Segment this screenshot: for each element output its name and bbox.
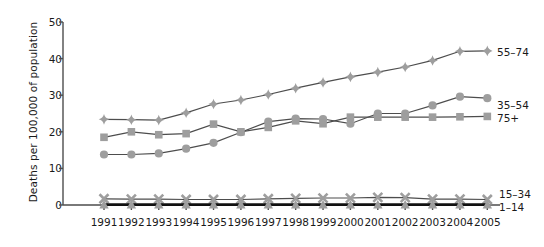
data-point-35-54 <box>456 93 464 101</box>
data-point-55-74 <box>318 77 329 88</box>
data-point-55-74 <box>99 114 110 125</box>
data-point-75+ <box>182 130 190 138</box>
data-point-35-54 <box>209 139 217 147</box>
data-point-75+ <box>401 113 409 121</box>
chart-plot-area <box>0 0 544 247</box>
data-point-75+ <box>264 124 272 132</box>
data-point-35-54 <box>428 101 436 109</box>
data-point-75+ <box>237 128 245 136</box>
data-point-35-54 <box>182 145 190 153</box>
data-point-55-74 <box>427 55 438 66</box>
data-point-55-74 <box>400 62 411 73</box>
data-point-75+ <box>319 120 327 128</box>
series-35-54 <box>100 93 492 159</box>
data-point-55-74 <box>373 67 384 78</box>
data-point-55-74 <box>181 107 192 118</box>
data-point-55-74 <box>455 46 466 57</box>
data-point-35-54 <box>483 94 491 102</box>
data-point-55-74 <box>290 83 301 94</box>
data-point-75+ <box>374 113 382 121</box>
data-point-55-74 <box>236 95 247 106</box>
data-point-75+ <box>347 113 355 121</box>
data-point-75+ <box>210 120 218 128</box>
data-point-55-74 <box>126 114 137 125</box>
data-point-55-74 <box>345 72 356 83</box>
data-point-75+ <box>128 128 136 136</box>
data-point-75+ <box>100 133 108 141</box>
data-point-75+ <box>292 117 300 125</box>
data-point-75+ <box>456 113 464 121</box>
data-point-75+ <box>484 113 492 121</box>
data-point-55-74 <box>153 115 164 126</box>
series-1-14 <box>99 200 492 209</box>
data-point-35-54 <box>127 150 135 158</box>
data-point-35-54 <box>100 150 108 158</box>
data-point-55-74 <box>482 46 493 57</box>
data-point-75+ <box>429 113 437 121</box>
data-point-35-54 <box>155 149 163 157</box>
chart-container: Deaths per 100,000 of population 0102030… <box>0 0 544 247</box>
data-point-55-74 <box>208 99 219 110</box>
data-point-55-74 <box>263 89 274 100</box>
data-point-75+ <box>155 131 163 139</box>
